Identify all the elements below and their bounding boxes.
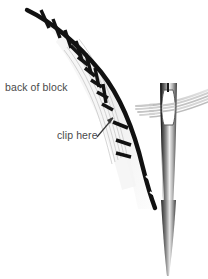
diagram-canvas: back of block clip here [0, 0, 208, 279]
needle-point [161, 200, 176, 276]
fabric-block [27, 11, 155, 209]
needle-top-split [167, 83, 169, 92]
label-clip-here: clip here [57, 130, 98, 141]
label-back-of-block: back of block [5, 82, 68, 93]
sewing-diagram-illustration [0, 0, 208, 279]
